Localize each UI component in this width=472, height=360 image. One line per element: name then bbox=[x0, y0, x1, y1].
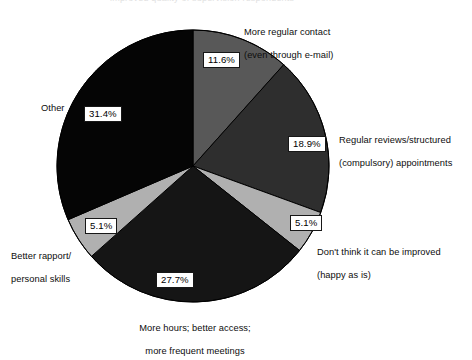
slice-label-line-2: (even through e-mail) bbox=[244, 50, 394, 61]
slice-label-line-1: Don't think it can be improved bbox=[317, 247, 472, 258]
slice-value-27-7: 27.7% bbox=[156, 272, 194, 288]
slice-label-line-2: (happy as is) bbox=[317, 270, 472, 281]
slice-label-better-rapport: Better rapport/ personal skills bbox=[11, 240, 111, 297]
slice-label-more-hours-better-access: More hours; better access; more frequent… bbox=[110, 312, 280, 360]
slice-label-regular-reviews: Regular reviews/structured (compulsory) … bbox=[339, 124, 472, 181]
slice-value-5-1-right: 5.1% bbox=[290, 215, 322, 231]
slice-label-line-2: more frequent meetings bbox=[110, 346, 280, 357]
slice-label-line-1: Regular reviews/structured bbox=[339, 135, 472, 146]
slice-value-18-9: 18.9% bbox=[288, 136, 326, 152]
slice-value-31-4: 31.4% bbox=[84, 106, 122, 122]
slice-label-cannot-be-improved: Don't think it can be improved (happy as… bbox=[317, 236, 472, 293]
slice-value-5-1-left: 5.1% bbox=[85, 218, 117, 234]
slice-label-line-2: personal skills bbox=[11, 274, 111, 285]
slice-label-line-1: More hours; better access; bbox=[110, 323, 280, 334]
slice-label-more-regular-contact: More regular contact (even through e-mai… bbox=[244, 16, 394, 73]
slice-value-11-6: 11.6% bbox=[203, 52, 240, 68]
slice-label-line-1: Better rapport/ bbox=[11, 251, 111, 262]
slice-label-line-2: (compulsory) appointments bbox=[339, 158, 472, 169]
slice-label-line-1: More regular contact bbox=[244, 27, 394, 38]
